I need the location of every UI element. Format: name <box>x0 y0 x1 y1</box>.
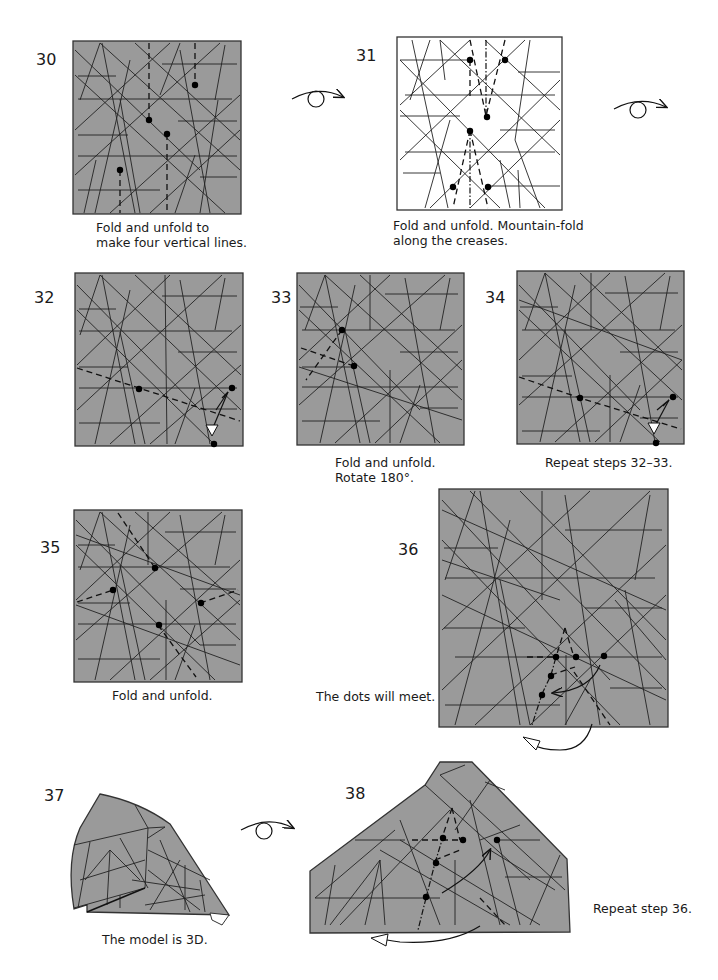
step-34-diagram <box>517 271 684 446</box>
step-30-diagram <box>73 41 241 214</box>
step-37-diagram <box>71 794 229 925</box>
step-36-diagram <box>439 489 668 750</box>
step-38-diagram <box>310 762 570 946</box>
diagram-canvas <box>0 0 718 980</box>
step-32-diagram <box>75 273 243 447</box>
step-33-diagram <box>297 273 464 445</box>
turn-over-icon <box>241 822 293 839</box>
turn-over-icon <box>292 91 343 107</box>
turn-over-icon <box>614 101 666 118</box>
step-31-diagram <box>397 37 562 210</box>
step-35-diagram <box>74 510 242 682</box>
